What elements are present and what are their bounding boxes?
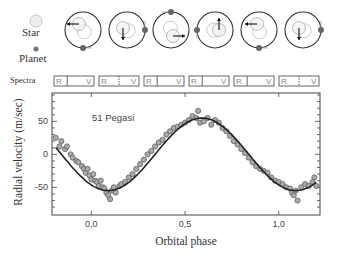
- data-point: [59, 139, 64, 144]
- data-point: [107, 197, 112, 202]
- data-point: [134, 166, 139, 171]
- data-point: [149, 148, 154, 153]
- data-point: [85, 166, 90, 171]
- spectrum-red-label: R: [191, 77, 197, 86]
- spectrum-red-label: R: [101, 77, 107, 86]
- y-axis-title: Radial velocity (m/sec): [12, 98, 25, 205]
- data-point: [137, 162, 142, 167]
- x-tick-label: 0,0: [85, 219, 98, 229]
- orbit-diagram: [109, 12, 148, 48]
- radial-velocity-chart: -50050 0,00,51,0 51 Pegasi Orbital phase…: [12, 93, 320, 248]
- data-point: [196, 108, 201, 113]
- orbit-diagram: [65, 12, 101, 51]
- data-point: [64, 144, 69, 149]
- data-point: [312, 175, 317, 180]
- spectrum-violet-label: V: [131, 77, 137, 86]
- planet-icon: [80, 45, 86, 51]
- y-tick-label: -50: [35, 182, 48, 192]
- data-point: [130, 172, 135, 177]
- data-point: [57, 144, 62, 149]
- spectrum-red-label: R: [281, 77, 287, 86]
- planet-legend-icon: [33, 46, 38, 51]
- spectrum-box: RV: [99, 76, 139, 86]
- spectrum-violet-label: V: [221, 77, 227, 86]
- data-point: [91, 172, 96, 177]
- orbit-diagram: [285, 12, 324, 48]
- spectrum-red-label: R: [236, 77, 242, 86]
- spectrum-box: RV: [54, 76, 94, 86]
- spectrum-box: RV: [279, 76, 319, 86]
- y-tick-labels: -50050: [35, 116, 48, 192]
- orbit-diagram: [241, 12, 277, 51]
- spectrum-violet-label: V: [86, 77, 92, 86]
- data-point: [160, 137, 165, 142]
- data-point: [295, 198, 300, 203]
- orbit-ring-icon: [65, 12, 101, 48]
- orbit-diagram: [194, 12, 233, 48]
- figure: Spectra RVRVRVRVRVRV -50050 0,00,51,0 51…: [0, 0, 337, 257]
- spectrum-box: RV: [189, 76, 229, 86]
- planet-icon: [168, 9, 174, 15]
- spectrum-box: RV: [234, 76, 274, 86]
- orbit-diagram: [153, 9, 189, 48]
- orbit-diagrams: [65, 9, 324, 51]
- planet-icon: [318, 27, 324, 33]
- x-tick-labels: 0,00,51,0: [85, 219, 285, 229]
- spectrum-box: RV: [144, 76, 184, 86]
- data-point: [53, 135, 58, 140]
- y-tick-label: 50: [38, 116, 48, 126]
- data-point: [141, 157, 146, 162]
- spectra-boxes: RVRVRVRVRVRV: [54, 76, 319, 86]
- data-point: [98, 178, 103, 183]
- x-tick-label: 1,0: [273, 219, 286, 229]
- y-tick-label: 0: [43, 149, 48, 159]
- spectra-label: Spectra: [10, 75, 36, 85]
- spectrum-violet-label: V: [266, 77, 272, 86]
- spectrum-violet-label: V: [311, 77, 317, 86]
- x-tick-label: 0,5: [179, 219, 192, 229]
- planet-icon: [194, 27, 200, 33]
- star-legend-icon: [30, 15, 42, 27]
- spectrum-red-label: R: [146, 77, 152, 86]
- planet-icon: [142, 27, 148, 33]
- planet-icon: [256, 45, 262, 51]
- chart-annotation: 51 Pegasi: [92, 112, 134, 123]
- data-point: [209, 122, 214, 127]
- spectrum-red-label: R: [56, 77, 62, 86]
- spectrum-violet-label: V: [176, 77, 182, 86]
- x-axis-title: Orbital phase: [155, 235, 217, 248]
